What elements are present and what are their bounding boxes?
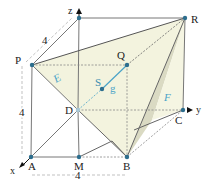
label-r: R [191, 13, 199, 25]
point-p [30, 63, 34, 67]
label-plane-f: F [163, 91, 171, 103]
label-s: S [95, 76, 101, 88]
point-m [77, 155, 81, 159]
edge-mb-c [79, 141, 112, 157]
point-c [181, 108, 185, 112]
label-c: C [175, 114, 182, 126]
edge-front-left [31, 65, 32, 157]
label-line-g: g [110, 82, 116, 94]
label-p: P [15, 54, 21, 66]
label-b: B [123, 160, 130, 172]
label-dim-left: 4 [19, 106, 25, 118]
x-axis-arrow-icon [19, 162, 25, 168]
label-dim-bottom: 4 [75, 169, 81, 181]
edge-md [78, 110, 79, 157]
y-axis-arrow-icon [187, 107, 193, 113]
point-d [76, 108, 80, 112]
point-b [125, 155, 129, 159]
point-r [183, 16, 187, 20]
label-z-axis: z [68, 5, 73, 16]
label-a: A [28, 160, 36, 172]
point-z-top [77, 16, 81, 20]
label-x-axis: x [10, 165, 15, 176]
label-dim-top: 4 [42, 34, 48, 46]
point-a [29, 155, 33, 159]
point-q [125, 63, 129, 67]
label-q: Q [117, 49, 125, 61]
label-d: D [65, 104, 73, 116]
label-y-axis: y [196, 104, 201, 115]
cube-diagram: z y x P Q R S D C A M B E F g 4 4 4 [0, 0, 205, 189]
edge-ad [31, 110, 78, 157]
